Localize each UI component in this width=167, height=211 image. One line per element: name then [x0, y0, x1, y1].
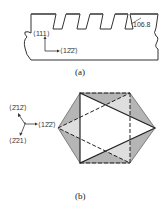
direction-arrows-b	[18, 113, 38, 136]
label-212-b: ⟨2̄12̄⟩	[9, 104, 27, 111]
caption-b: (b)	[75, 191, 86, 201]
label-122-a: ⟨12̄2̄⟩	[60, 47, 78, 54]
label-111-a: ⟨111⟩	[33, 30, 50, 37]
caption-a: (a)	[75, 67, 85, 77]
diagram-canvas: ⟨111⟩ ⟨12̄2̄⟩ 106.8 (a) ⟨2̄12̄⟩ ⟨12̄2̄⟩ …	[0, 0, 167, 211]
label-221-b: ⟨2̄21⟩	[9, 137, 27, 144]
label-122-b: ⟨12̄2̄⟩	[38, 121, 56, 128]
label-angle: 106.8	[133, 21, 151, 28]
hexagon-b	[58, 93, 155, 163]
